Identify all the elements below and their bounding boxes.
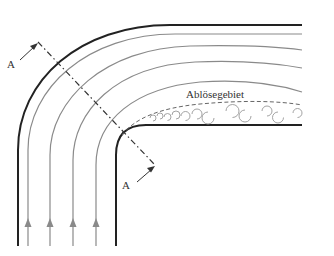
section-line-a-a [38, 42, 155, 165]
section-label-bottom: A [122, 179, 130, 191]
arrow-icon [147, 166, 155, 173]
vortices [150, 105, 302, 125]
streamline-2 [50, 46, 302, 246]
arrow-up-icon [25, 218, 32, 227]
streamline-4 [96, 81, 302, 246]
section-label-top: A [7, 58, 15, 70]
inner-wall [116, 125, 302, 246]
streamlines [28, 34, 302, 246]
separation-region-label: Ablösegebiet [186, 88, 244, 100]
separation-boundary [122, 101, 302, 135]
arrow-up-icon [93, 218, 100, 227]
arrow-up-icon [47, 218, 54, 227]
outer-wall [18, 25, 302, 246]
pipe-bend-diagram: A A Ablösegebiet [0, 0, 334, 256]
arrow-up-icon [70, 218, 77, 227]
flow-arrows [25, 218, 100, 227]
